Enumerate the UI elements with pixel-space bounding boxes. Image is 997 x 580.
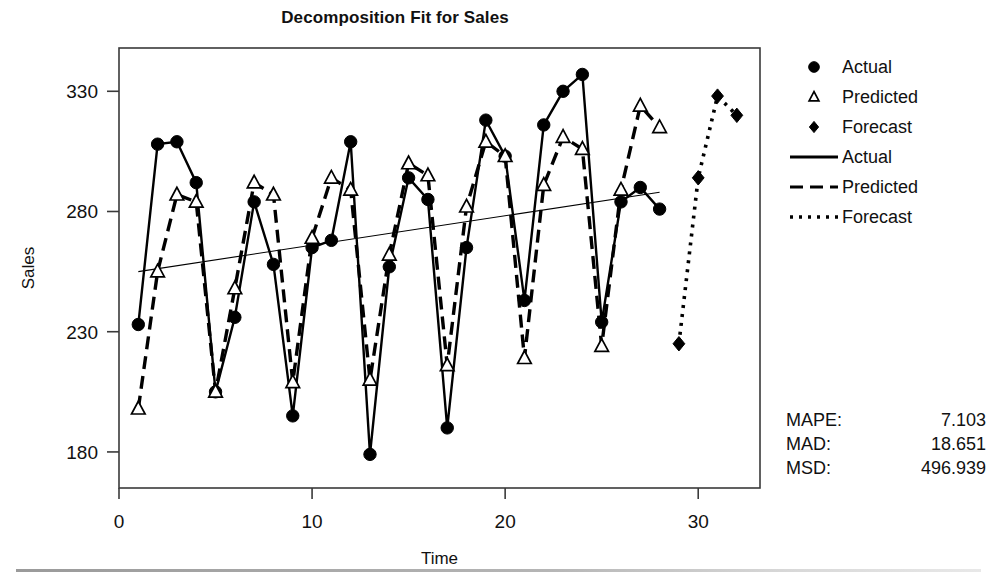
y-tick-label: 230: [66, 322, 98, 343]
data-point-predicted: [421, 168, 435, 181]
data-point-actual: [325, 234, 337, 246]
legend-item-label: Actual: [842, 57, 892, 78]
data-point-forecast: [673, 337, 685, 351]
data-point-predicted: [614, 182, 628, 195]
data-point-actual: [267, 258, 279, 270]
data-point-actual: [441, 422, 453, 434]
chart-page: Decomposition Fit for Sales 0102030 1802…: [0, 0, 997, 580]
data-point-actual: [480, 114, 492, 126]
data-point-actual: [576, 68, 588, 80]
dashed-line-icon: [786, 176, 842, 198]
legend-item[interactable]: Predicted: [786, 172, 991, 202]
y-axis: 180230280330: [66, 81, 119, 463]
legend-item-label: Forecast: [842, 207, 912, 228]
bottom-divider: [16, 569, 981, 572]
data-point-predicted: [170, 187, 184, 200]
data-point-predicted: [151, 264, 165, 277]
data-point-predicted: [556, 130, 570, 143]
data-point-actual: [383, 261, 395, 273]
data-point-actual: [151, 138, 163, 150]
data-point-actual: [653, 203, 665, 215]
data-point-actual: [595, 316, 607, 328]
accuracy-measure-row: MAPE:7.103: [786, 408, 986, 432]
data-point-actual: [190, 176, 202, 188]
legend-item[interactable]: Forecast: [786, 112, 991, 142]
legend-item[interactable]: Predicted: [786, 82, 991, 112]
data-point-predicted: [595, 339, 609, 352]
chart-legend: ActualPredictedForecastActualPredictedFo…: [786, 52, 991, 232]
filled-circle-icon: [786, 56, 842, 78]
x-axis-label: Time: [421, 549, 458, 568]
accuracy-measure-label: MSD:: [786, 456, 831, 480]
data-point-actual: [615, 196, 627, 208]
data-point-actual: [460, 241, 472, 253]
data-point-predicted: [247, 175, 261, 188]
y-axis-label: Sales: [19, 247, 38, 290]
data-point-actual: [344, 136, 356, 148]
filled-diamond-icon: [786, 116, 842, 138]
accuracy-measure-value: 18.651: [931, 432, 986, 456]
series-trend-line: [138, 192, 659, 271]
solid-line-icon: [786, 146, 842, 168]
series-lines: [138, 74, 737, 454]
accuracy-measure-label: MAPE:: [786, 408, 842, 432]
dotted-line-icon: [786, 206, 842, 228]
accuracy-measure-row: MAD:18.651: [786, 432, 986, 456]
data-point-predicted: [633, 98, 647, 111]
legend-item-label: Forecast: [842, 117, 912, 138]
x-axis: 0102030: [114, 488, 709, 532]
legend-item[interactable]: Actual: [786, 52, 991, 82]
data-point-predicted: [653, 120, 667, 133]
accuracy-measures: MAPE:7.103MAD:18.651MSD:496.939: [786, 408, 986, 480]
x-tick-label: 10: [302, 511, 323, 532]
data-point-actual: [229, 311, 241, 323]
accuracy-measure-value: 496.939: [921, 456, 986, 480]
data-point-predicted: [325, 170, 339, 183]
data-point-actual: [402, 172, 414, 184]
plot-frame: [119, 48, 760, 488]
legend-item-label: Actual: [842, 147, 892, 168]
data-point-predicted: [537, 178, 551, 191]
open-triangle-icon: [786, 86, 842, 108]
legend-item[interactable]: Actual: [786, 142, 991, 172]
data-point-predicted: [131, 401, 145, 414]
data-point-actual: [287, 410, 299, 422]
data-point-actual: [634, 181, 646, 193]
data-point-forecast: [692, 171, 704, 185]
data-point-predicted: [518, 351, 532, 364]
data-point-actual: [538, 119, 550, 131]
data-point-predicted: [479, 134, 493, 147]
y-tick-label: 180: [66, 442, 98, 463]
data-point-actual: [422, 193, 434, 205]
legend-item-label: Predicted: [842, 177, 918, 198]
legend-item-label: Predicted: [842, 87, 918, 108]
legend-item[interactable]: Forecast: [786, 202, 991, 232]
x-tick-label: 0: [114, 511, 125, 532]
data-point-actual: [518, 294, 530, 306]
data-point-forecast: [712, 89, 724, 103]
series-line-forecast: [679, 96, 737, 344]
data-point-actual: [132, 318, 144, 330]
x-tick-label: 20: [495, 511, 516, 532]
data-point-predicted: [305, 231, 319, 244]
data-point-actual: [364, 448, 376, 460]
accuracy-measure-label: MAD:: [786, 432, 831, 456]
x-tick-label: 30: [688, 511, 709, 532]
y-tick-label: 280: [66, 201, 98, 222]
data-point-predicted: [460, 199, 474, 212]
data-point-predicted: [189, 194, 203, 207]
data-point-actual: [248, 196, 260, 208]
accuracy-measure-row: MSD:496.939: [786, 456, 986, 480]
accuracy-measure-value: 7.103: [941, 408, 986, 432]
data-point-predicted: [402, 156, 416, 169]
data-point-actual: [171, 136, 183, 148]
y-tick-label: 330: [66, 81, 98, 102]
data-point-actual: [557, 85, 569, 97]
